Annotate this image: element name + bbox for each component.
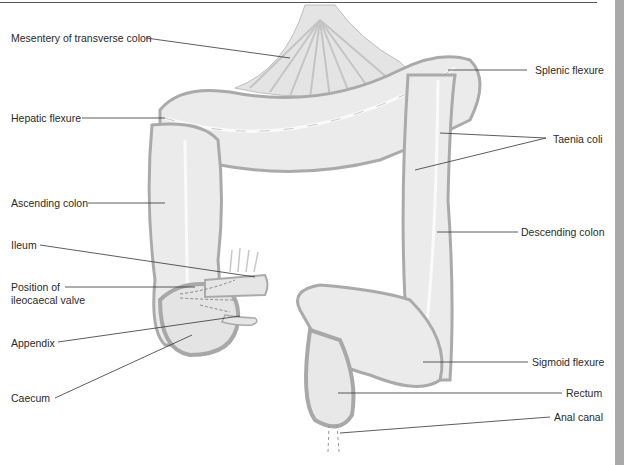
ileum: [205, 275, 268, 297]
label-ascending-colon: Ascending colon: [11, 197, 88, 209]
label-descending-colon: Descending colon: [521, 226, 604, 238]
label-valve-line1: Position of: [11, 281, 60, 293]
label-valve-line2: ileocaecal valve: [11, 294, 85, 306]
label-appendix: Appendix: [11, 337, 55, 349]
label-taenia-coli: Taenia coli: [553, 133, 603, 145]
appendix: [222, 315, 257, 325]
label-mesentery: Mesentery of transverse colon: [11, 32, 152, 44]
large-intestine-diagram: Mesentery of transverse colon Hepatic fl…: [0, 0, 624, 465]
label-caecum: Caecum: [11, 392, 50, 404]
label-rectum: Rectum: [566, 387, 602, 399]
label-ileum: Ileum: [11, 239, 37, 251]
label-anal-canal: Anal canal: [554, 411, 603, 423]
anal-canal: [328, 425, 339, 452]
ileum-mesentery: [230, 248, 258, 272]
label-sigmoid-flexure: Sigmoid flexure: [532, 356, 604, 368]
label-hepatic-flexure: Hepatic flexure: [11, 112, 81, 124]
label-splenic-flexure: Splenic flexure: [535, 64, 604, 76]
